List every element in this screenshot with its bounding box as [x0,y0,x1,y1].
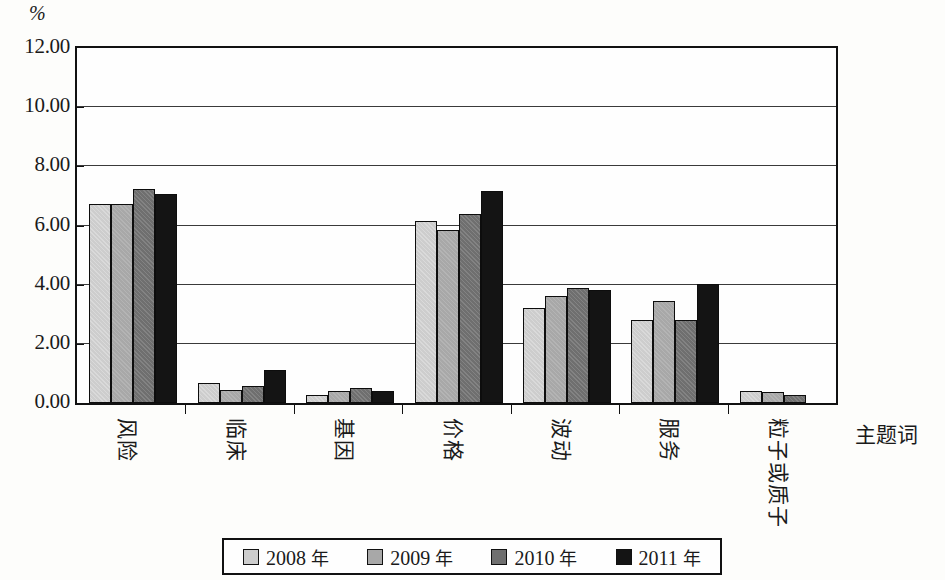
bar [523,308,545,403]
legend-item: 2008 年 [243,544,329,570]
bar [545,296,567,403]
bar [328,391,350,403]
bar [155,194,177,403]
x-axis-tick-mark [185,405,186,414]
x-axis-tick-mark [511,405,512,414]
bar [306,395,328,403]
legend-swatch-icon [367,549,383,565]
bar-chart: % 0.002.004.006.008.0010.0012.00 风险临床基因价… [0,0,945,580]
bar-group [415,48,503,403]
bar [481,191,503,403]
x-axis-tick-mark [728,405,729,414]
bar [437,230,459,403]
bar [740,391,762,403]
bar-group [740,48,828,403]
y-axis-tick-label: 0.00 [2,389,70,414]
bar-group [198,48,286,403]
bar [675,320,697,403]
legend-swatch-icon [616,549,632,565]
legend-label: 2009 年 [390,544,453,570]
legend-swatch-icon [491,549,507,565]
x-axis-tick-mark [402,405,403,414]
bar-group [306,48,394,403]
x-axis-category-label: 基因 [331,418,361,462]
legend-label: 2010 年 [514,544,577,570]
bar [697,284,719,403]
x-axis-category-label: 风险 [114,418,144,462]
y-axis-tick-label: 10.00 [2,93,70,118]
bar [372,391,394,403]
bar-group [89,48,177,403]
bars-layer [77,48,836,403]
x-axis-category-label: 粒子或质子 [765,418,795,528]
bar [415,221,437,403]
bar [111,204,133,403]
legend-item: 2011 年 [616,544,701,570]
chart-legend: 2008 年2009 年2010 年2011 年 [222,538,722,575]
x-axis-category-label: 价格 [440,418,470,462]
bar [89,204,111,403]
x-axis-title: 主题词 [855,418,918,448]
legend-item: 2010 年 [491,544,577,570]
bar [784,395,806,403]
x-axis-category-label: 服务 [656,418,686,462]
bar-group [631,48,719,403]
bar [220,390,242,403]
y-axis-unit-label: % [29,2,46,25]
x-axis-category-label: 临床 [223,418,253,462]
bar [242,386,264,403]
x-axis-category-label: 波动 [548,418,578,462]
x-axis-tick-mark [294,405,295,414]
bar [459,214,481,403]
bar [567,288,589,403]
x-axis-tick-mark [619,405,620,414]
bar [653,301,675,403]
bar [350,388,372,403]
y-axis-tick-label: 4.00 [2,271,70,296]
legend-item: 2009 年 [367,544,453,570]
bar [631,320,653,403]
legend-label: 2011 年 [639,544,701,570]
y-axis-tick-label: 2.00 [2,330,70,355]
legend-swatch-icon [243,549,259,565]
y-axis-tick-label: 6.00 [2,212,70,237]
y-axis-tick-label: 12.00 [2,34,70,59]
bar [264,370,286,403]
y-axis-tick-label: 8.00 [2,152,70,177]
bar [133,189,155,403]
bar [589,290,611,403]
bar [198,383,220,403]
legend-label: 2008 年 [266,544,329,570]
bar [762,392,784,403]
bar-group [523,48,611,403]
